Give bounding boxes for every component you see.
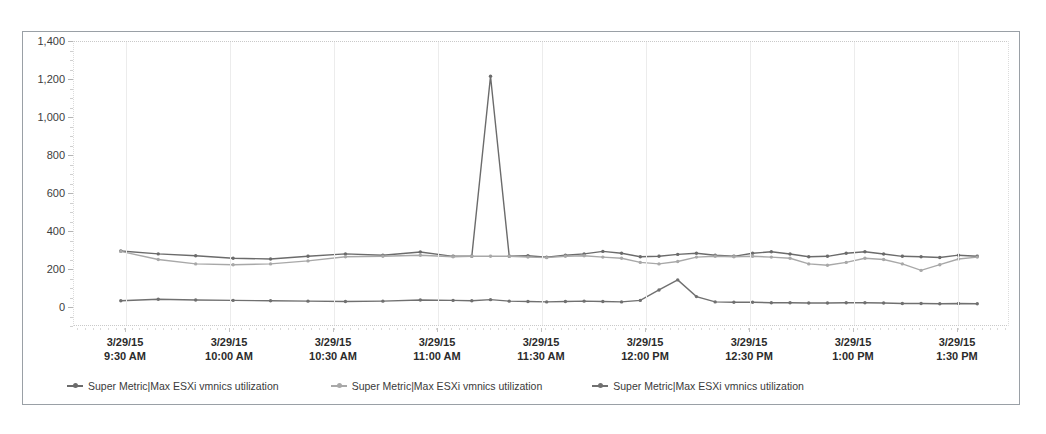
x-tick-minor	[350, 328, 351, 330]
x-tick-date: 3/29/15	[725, 335, 773, 349]
x-tick-minor	[358, 328, 359, 330]
x-tick-minor	[545, 328, 546, 330]
x-tick-minor	[865, 328, 866, 330]
data-point	[119, 299, 122, 302]
x-tick-minor	[561, 328, 562, 330]
x-tick-minor	[818, 328, 819, 330]
x-tick-mark	[541, 328, 542, 332]
data-point	[770, 250, 773, 253]
x-tick-minor	[498, 328, 499, 330]
data-point	[231, 257, 234, 260]
x-tick-minor	[428, 328, 429, 330]
data-point	[582, 254, 585, 257]
x-tick-minor	[756, 328, 757, 330]
x-tick-minor	[701, 328, 702, 330]
x-tick-minor	[233, 328, 234, 330]
x-tick-minor	[904, 328, 905, 330]
data-point	[882, 258, 885, 261]
x-tick-date: 3/29/15	[936, 335, 978, 349]
x-tick-minor	[553, 328, 554, 330]
x-tick-minor	[405, 328, 406, 330]
x-tick-minor	[280, 328, 281, 330]
x-tick-mark	[437, 328, 438, 332]
x-tick-minor	[327, 328, 328, 330]
x-tick-label: 3/29/1511:00 AM	[413, 335, 460, 363]
y-tick-label: 400	[47, 225, 65, 237]
x-tick-minor	[826, 328, 827, 330]
x-tick-minor	[849, 328, 850, 330]
legend-item[interactable]: Super Metric|Max ESXi vmnics utilization	[592, 380, 804, 392]
legend-line-marker-icon	[67, 382, 83, 390]
vertical-gridline	[438, 42, 439, 325]
x-tick-minor	[631, 328, 632, 330]
data-point	[639, 255, 642, 258]
y-tick-label: 1,200	[37, 73, 65, 85]
x-tick-minor	[397, 328, 398, 330]
data-point	[882, 252, 885, 255]
data-point	[526, 300, 529, 303]
x-tick-minor	[880, 328, 881, 330]
x-tick-minor	[444, 328, 445, 330]
data-point	[901, 255, 904, 258]
data-point	[901, 262, 904, 265]
x-tick-minor	[927, 328, 928, 330]
x-tick-minor	[997, 328, 998, 330]
x-tick-minor	[529, 328, 530, 330]
data-point	[639, 299, 642, 302]
x-tick-minor	[802, 328, 803, 330]
data-point	[695, 295, 698, 298]
data-point	[582, 299, 585, 302]
x-tick-minor	[857, 328, 858, 330]
data-point	[381, 299, 384, 302]
data-point	[919, 269, 922, 272]
x-tick-minor	[873, 328, 874, 330]
x-tick-label: 3/29/1512:00 PM	[621, 335, 669, 363]
x-tick-date: 3/29/15	[309, 335, 357, 349]
x-tick-label: 3/29/1510:30 AM	[309, 335, 357, 363]
x-tick-minor	[256, 328, 257, 330]
vertical-gridline	[230, 42, 231, 325]
x-tick-minor	[420, 328, 421, 330]
x-tick-time: 1:00 PM	[832, 349, 874, 363]
legend-item[interactable]: Super Metric|Max ESXi vmnics utilization	[331, 380, 543, 392]
x-tick-minor	[506, 328, 507, 330]
data-point	[194, 298, 197, 301]
x-tick-minor	[412, 328, 413, 330]
x-tick-minor	[600, 328, 601, 330]
x-tick-minor	[966, 328, 967, 330]
x-tick-minor	[459, 328, 460, 330]
x-tick-minor	[678, 328, 679, 330]
data-point	[231, 263, 234, 266]
data-point	[919, 255, 922, 258]
x-tick-minor	[607, 328, 608, 330]
x-tick-minor	[451, 328, 452, 330]
data-point	[620, 257, 623, 260]
data-point	[620, 252, 623, 255]
data-point	[157, 258, 160, 261]
data-point	[938, 263, 941, 266]
x-tick-minor	[373, 328, 374, 330]
x-tick-minor	[779, 328, 780, 330]
legend-item[interactable]: Super Metric|Max ESXi vmnics utilization	[67, 380, 279, 392]
x-tick-minor	[139, 328, 140, 330]
x-tick-date: 3/29/15	[205, 335, 253, 349]
data-point	[601, 255, 604, 258]
x-tick-minor	[576, 328, 577, 330]
x-tick-date: 3/29/15	[413, 335, 460, 349]
data-point	[976, 302, 979, 305]
data-point	[231, 299, 234, 302]
data-point	[751, 255, 754, 258]
y-tick-label: 600	[47, 187, 65, 199]
data-point	[807, 262, 810, 265]
data-point	[751, 301, 754, 304]
data-point	[194, 262, 197, 265]
x-axis: 3/29/159:30 AM3/29/1510:00 AM3/29/1510:3…	[73, 328, 1009, 374]
x-tick-minor	[693, 328, 694, 330]
x-tick-minor	[116, 328, 117, 330]
x-tick-minor	[654, 328, 655, 330]
data-point	[451, 255, 454, 258]
data-point	[470, 255, 473, 258]
x-tick-minor	[272, 328, 273, 330]
data-point	[919, 302, 922, 305]
x-tick-label: 3/29/1510:00 AM	[205, 335, 253, 363]
